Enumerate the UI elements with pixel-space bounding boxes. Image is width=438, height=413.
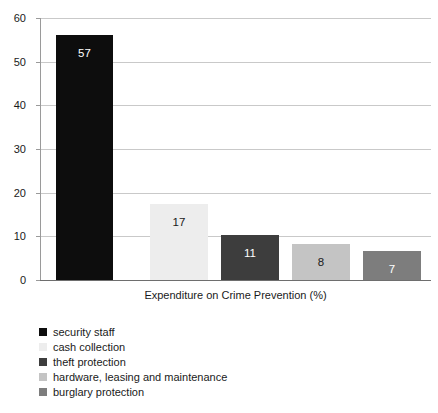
bar[interactable]: 17 (150, 204, 208, 280)
bar-value-label: 8 (292, 256, 350, 268)
y-axis-tick-label: 10 (0, 231, 26, 242)
legend-color-swatch (39, 343, 47, 351)
y-axis-tick-label: 30 (0, 144, 26, 155)
plot-area: 57171187 (40, 18, 431, 280)
bar-value-label: 7 (363, 263, 421, 275)
legend-item-label: burglary protection (53, 386, 144, 399)
bar[interactable]: 7 (363, 251, 421, 280)
bar[interactable]: 8 (292, 244, 350, 280)
legend-item-label: security staff (53, 326, 115, 339)
chart-legend: security staffcash collectiontheft prote… (39, 325, 419, 400)
legend-item-label: hardware, leasing and maintenance (53, 371, 227, 384)
bar[interactable]: 57 (56, 35, 113, 280)
gridline (40, 18, 431, 19)
legend-color-swatch (39, 328, 47, 336)
legend-color-swatch (39, 373, 47, 381)
x-axis-line (40, 280, 431, 281)
legend-color-swatch (39, 388, 47, 396)
x-axis-title: Expenditure on Crime Prevention (%) (40, 288, 431, 302)
legend-item[interactable]: theft protection (39, 355, 419, 369)
legend-item-label: cash collection (53, 341, 125, 354)
y-axis-tick-label: 0 (0, 275, 26, 286)
legend-item-label: theft protection (53, 356, 126, 369)
legend-item[interactable]: cash collection (39, 340, 419, 354)
y-axis-tick-label: 60 (0, 13, 26, 24)
y-axis-tick-label: 40 (0, 100, 26, 111)
legend-color-swatch (39, 358, 47, 366)
legend-item[interactable]: hardware, leasing and maintenance (39, 370, 419, 384)
bar-value-label: 17 (150, 216, 208, 228)
y-axis-line (40, 18, 41, 281)
y-axis-tick-label: 20 (0, 187, 26, 198)
bar-value-label: 11 (221, 247, 279, 259)
legend-item[interactable]: burglary protection (39, 385, 419, 399)
bar[interactable]: 11 (221, 235, 279, 280)
legend-item[interactable]: security staff (39, 325, 419, 339)
bar-chart-figure: 0102030405060 57171187 Expenditure on Cr… (0, 0, 438, 413)
y-axis-tick-label: 50 (0, 56, 26, 67)
bar-value-label: 57 (56, 47, 113, 59)
